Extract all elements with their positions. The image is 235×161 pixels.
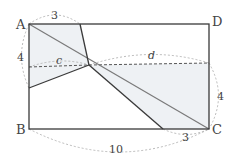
geometry-diagram: A D B C 3 4 c d 4 3 10 <box>0 0 235 161</box>
label-d: d <box>148 49 155 62</box>
vertex-label-d: D <box>212 14 222 29</box>
label-top-3: 3 <box>51 9 58 22</box>
label-right-4: 4 <box>217 90 224 103</box>
label-bottom-10: 10 <box>109 143 123 156</box>
vertex-label-c: C <box>212 122 222 137</box>
vertex-label-a: A <box>15 17 26 32</box>
label-c: c <box>56 54 62 67</box>
label-bottom-3: 3 <box>182 131 189 144</box>
vertex-label-b: B <box>16 122 26 137</box>
label-left-4: 4 <box>17 51 24 64</box>
